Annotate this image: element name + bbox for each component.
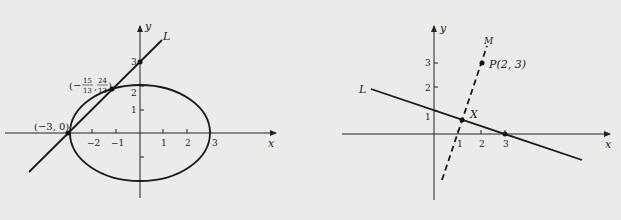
line-m — [442, 46, 487, 180]
x-tick-label: 3 — [503, 139, 509, 149]
point-p-label: P(2, 3) — [488, 58, 526, 71]
y-tick-label: 1 — [425, 112, 431, 122]
x-axis-label: x — [605, 138, 612, 151]
y-tick-label: 3 — [425, 58, 431, 68]
point-p — [480, 61, 485, 66]
left-figure: x y −2 −1 1 2 3 1 2 3 L (−3, 0) — [5, 20, 276, 198]
diagram-canvas: x y −2 −1 1 2 3 1 2 3 L (−3, 0) — [0, 0, 621, 220]
point-x — [460, 118, 465, 123]
y-axis-label: y — [144, 20, 152, 33]
svg-text:,: , — [94, 81, 97, 92]
point-y-intercept — [138, 60, 143, 65]
svg-text:24: 24 — [98, 77, 107, 85]
line-l-label: L — [162, 30, 170, 43]
svg-text:13: 13 — [83, 87, 92, 95]
svg-text:13: 13 — [98, 87, 107, 95]
y-tick-label: 2 — [131, 88, 137, 98]
svg-text:15: 15 — [83, 77, 92, 85]
x-tick-label: 2 — [479, 139, 485, 149]
point-b-label: (− 15 13 , 24 13 ) — [69, 77, 112, 95]
x-tick-label: −2 — [87, 138, 100, 148]
line-m-label: M — [483, 36, 494, 46]
line-l — [29, 40, 162, 172]
svg-text:(−: (− — [69, 80, 81, 91]
right-figure: x y 1 2 3 1 2 3 L M P(2, 3) X — [342, 22, 612, 200]
y-axis-label: y — [439, 22, 447, 35]
point-a-label: (−3, 0) — [34, 121, 69, 132]
x-tick-label: −1 — [111, 138, 124, 148]
line-l — [371, 89, 582, 160]
x-tick-label: 1 — [457, 139, 463, 149]
x-axis-label: x — [268, 137, 275, 150]
svg-text:): ) — [108, 80, 112, 91]
x-tick-label: 2 — [185, 138, 191, 148]
line-l-label: L — [358, 83, 366, 96]
x-ticks — [92, 86, 210, 157]
x-tick-label: 1 — [161, 138, 167, 148]
y-tick-label: 2 — [425, 83, 431, 93]
x-tick-label: 3 — [212, 138, 218, 148]
point-x-intercept — [503, 132, 508, 137]
point-x-label: X — [469, 108, 479, 121]
y-tick-label: 1 — [131, 105, 137, 115]
